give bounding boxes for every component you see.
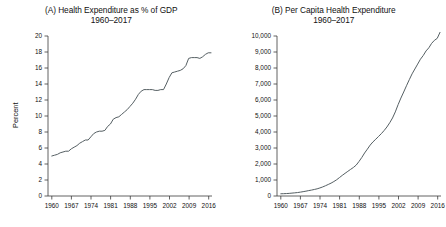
panel-b-ytick-3: 3,000 [255,144,271,151]
panel-a-plot: 0 2 4 6 8 10 12 14 16 18 20 [0,0,223,227]
panel-a-xtick-7: 2009 [182,202,197,209]
panel-b-svg: 0 1,000 2,000 3,000 4,000 5,000 6,000 7,… [223,0,446,227]
panel-b-plot: 0 1,000 2,000 3,000 4,000 5,000 6,000 7,… [223,0,446,227]
panel-a-ytick-8: 16 [35,64,43,71]
panel-b-ytick-7: 7,000 [255,80,271,87]
panel-b-ytick-4: 4,000 [255,128,271,135]
panel-a-series-line [52,53,211,156]
panel-b-ytick-8: 8,000 [255,64,271,71]
panel-a-xtick-3: 1981 [103,202,118,209]
panel-b-xtick-1: 1967 [293,202,308,209]
panel-a-svg: 0 2 4 6 8 10 12 14 16 18 20 [0,0,222,227]
panel-a-ytick-5: 10 [35,112,43,119]
panel-a-ytick-2: 4 [38,160,42,167]
panel-b-xtick-8: 2016 [430,202,445,209]
panel-b-ytick-6: 6,000 [255,96,271,103]
panel-a-ytick-7: 14 [35,80,43,87]
panel-a-ytick-3: 6 [38,144,42,151]
panel-a-ytick-4: 8 [38,128,42,135]
panel-b-ytick-5: 5,000 [255,112,271,119]
panel-b-xtick-4: 1988 [352,202,367,209]
panel-b: (B) Per Capita Health Expenditure1960–20… [223,0,446,227]
panel-a-y-tick-labels: 0 2 4 6 8 10 12 14 16 18 20 [35,32,43,199]
panel-b-xtick-2: 1974 [312,202,327,209]
panel-b-xtick-6: 2002 [391,202,406,209]
panel-b-xtick-3: 1981 [332,202,347,209]
panel-a-ytick-0: 0 [38,192,42,199]
panel-b-xtick-0: 1960 [273,202,288,209]
panel-a-ytick-1: 2 [38,176,42,183]
panel-b-ytick-0: 0 [267,192,271,199]
panel-b-xtick-5: 1995 [371,202,386,209]
panel-b-ytick-10: 10,000 [251,32,271,39]
panel-a-xtick-4: 1988 [123,202,138,209]
panel-b-ytick-1: 1,000 [255,176,271,183]
panel-b-y-tick-labels: 0 1,000 2,000 3,000 4,000 5,000 6,000 7,… [251,32,271,199]
panel-a-ytick-6: 12 [35,96,43,103]
panel-a-x-tick-labels: 1960 1967 1974 1981 1988 1995 2002 2009 … [45,202,217,209]
panel-a-xtick-6: 2002 [162,202,177,209]
panel-b-ytick-9: 9,000 [255,48,271,55]
panel-b-series-line [280,32,439,193]
panel-b-x-ticks [280,196,437,200]
panel-b-y-ticks [273,36,277,196]
panel-a-xtick-1: 1967 [64,202,79,209]
panel-a-xtick-0: 1960 [45,202,60,209]
panel-b-x-tick-labels: 1960 1967 1974 1981 1988 1995 2002 2009 … [273,202,445,209]
panel-a-xtick-5: 1995 [143,202,158,209]
panel-a-ytick-9: 18 [35,48,43,55]
panel-a-y-ticks [45,36,49,196]
panel-a: (A) Health Expenditure as % of GDP1960–2… [0,0,223,227]
panel-a-ytick-10: 20 [35,32,43,39]
panel-b-xtick-7: 2009 [410,202,425,209]
panel-a-x-ticks [52,196,209,200]
panel-a-xtick-8: 2016 [202,202,217,209]
panel-a-xtick-2: 1974 [84,202,99,209]
panel-b-ytick-2: 2,000 [255,160,271,167]
